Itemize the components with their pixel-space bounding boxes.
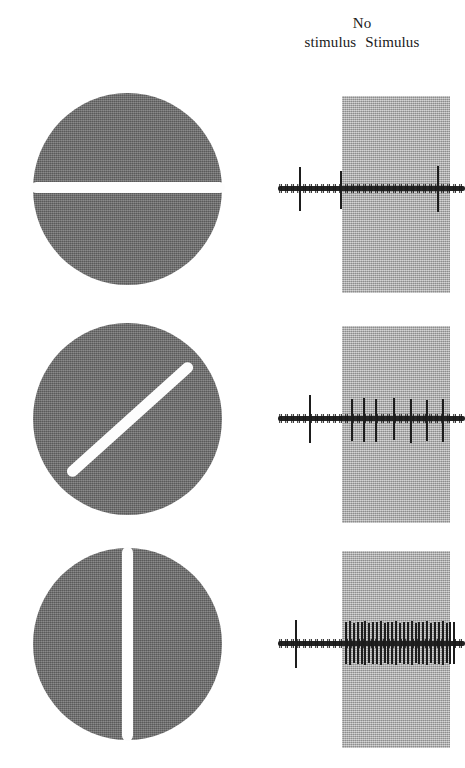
stimulus-label: Stimulus [365,34,419,50]
spike [361,622,363,663]
spike [395,621,397,664]
spike [399,623,401,664]
trial-row-horizontal [0,93,465,293]
spike [442,399,444,442]
spike [446,623,448,664]
spike [295,620,297,668]
spike [434,622,436,665]
spike [453,622,455,663]
spike [368,623,370,663]
spike [299,167,301,211]
spike [345,622,347,663]
oblique-bar-stimulus [30,323,226,519]
spike [442,621,444,665]
spike [357,622,359,665]
spike [410,399,412,443]
no-stimulus-label-line1: No [262,14,462,33]
spike [430,623,432,664]
spike [353,623,355,664]
spike [418,622,420,664]
spike [449,622,451,664]
spike [426,621,428,664]
spike [363,398,365,442]
column-headers: No stimulusStimulus [262,14,462,52]
horizontal-bar-stimulus [30,93,226,289]
spike [387,622,389,665]
vertical-bar-stimulus [30,548,226,744]
spike [384,623,386,664]
spike [309,395,311,443]
orientation-selectivity-figure: No stimulusStimulus [0,0,465,768]
spike [380,621,382,665]
orientation-bar-oblique [65,360,196,479]
spike [372,622,374,664]
spike [403,622,405,665]
spike [376,622,378,663]
spike-train [278,93,465,293]
spike [393,398,395,440]
spike [391,622,393,663]
orientation-bar-horizontal [31,182,225,193]
spike [438,622,440,663]
spike [407,622,409,663]
spike [364,621,366,665]
spike [426,400,428,441]
spike [340,171,342,209]
spike [351,399,353,441]
no-stimulus-label-line2: stimulus [305,34,357,50]
stimulus-disc [33,548,222,740]
orientation-bar-vertical [122,547,133,741]
spike [437,166,439,212]
trial-row-oblique [0,323,465,523]
neural-trace-vertical [278,548,465,748]
stimulus-disc [33,323,222,515]
trial-row-vertical [0,548,465,748]
spike [415,623,417,664]
trace-noise [278,414,465,423]
neural-trace-oblique [278,323,465,523]
neural-trace-horizontal [278,93,465,293]
stimulus-disc [33,93,222,285]
spike-train [278,323,465,523]
spike [375,399,377,442]
spike [349,621,351,665]
spike [411,621,413,665]
spike [422,622,424,663]
spike-train [278,548,465,748]
